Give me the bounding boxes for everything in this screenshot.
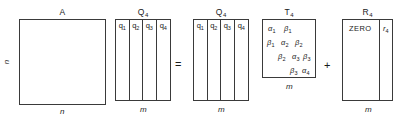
t4-entry-r3c4: β3 [303,53,310,61]
q-column-2-label: q2 [208,22,221,30]
matrix-a-dim-left: n [3,60,11,64]
matrix-q4-right-title: Q4 [193,8,249,17]
t4-entry-r1c1: α1 [268,25,275,33]
matrix-q4-right-title-sub: 4 [223,12,227,18]
q-column-3-label: q3 [143,22,156,30]
matrix-a-title-text: A [60,7,66,17]
q-column-2: q2 [130,20,144,100]
matrix-q4-right-title-text: Q [216,7,223,17]
matrix-t4-dim-bottom: m [286,83,293,91]
equals-operator: = [175,59,181,70]
matrix-r4-dim-bottom: m [365,106,372,114]
q-column-4: q4 [235,20,249,100]
figure-canvas: A n n Q4 q1 q2 q3 q4 m = Q4 [0,0,404,123]
matrix-r4-title-text: R [363,7,369,17]
t4-entry-r2c1: β1 [267,39,274,47]
q-column-1: q1 [194,20,208,100]
plus-operator: + [324,60,330,71]
matrix-r4-column-divider [379,20,380,100]
q-column-1-label: q1 [116,22,129,30]
q-column-1: q1 [116,20,130,100]
matrix-a-title: A [19,8,106,17]
q-column-3: q3 [143,20,157,100]
q-column-2-label: q2 [130,22,143,30]
matrix-q4-left-title-text: Q [138,7,145,17]
q-column-3-label: q3 [221,22,234,30]
q-column-1-label: q1 [194,22,207,30]
matrix-t4-box: α1 β1 β1 α2 β2 β2 α3 β3 β3 α4 [262,19,316,78]
matrix-q4-right-box: q1 q2 q3 q4 [193,19,249,101]
matrix-q4-left-title-sub: 4 [145,12,149,18]
t4-entry-r2c2: α2 [281,39,288,47]
t4-entry-r2c3: β2 [295,39,302,47]
matrix-q4-right-columns: q1 q2 q3 q4 [194,20,248,100]
q-column-4-label: q4 [157,22,171,30]
matrix-q4-left-dim-bottom: m [140,106,147,114]
t4-entry-r1c2: β1 [284,25,291,33]
matrix-a-box [19,19,106,105]
matrix-r4-box: ZERO r4 [342,19,393,101]
q-column-4: q4 [157,20,171,100]
matrix-r4-title-sub: 4 [369,12,373,18]
matrix-r4-title: R4 [342,8,393,17]
q-column-4-label: q4 [235,22,249,30]
matrix-r4-zero-label: ZERO [349,25,371,33]
matrix-r4-last-column-label: r4 [383,25,389,33]
matrix-q4-right-dim-bottom: m [218,106,225,114]
q-column-2: q2 [208,20,222,100]
matrix-a-dim-bottom: n [60,108,64,116]
matrix-q4-left-title: Q4 [115,8,171,17]
matrix-t4-title: T4 [262,8,316,17]
t4-entry-r3c2: β2 [278,53,285,61]
t4-entry-r4c3: β3 [290,67,297,75]
t4-entry-r4c4: α4 [302,67,309,75]
matrix-q4-left-columns: q1 q2 q3 q4 [116,20,170,100]
q-column-3: q3 [221,20,235,100]
matrix-q4-left-box: q1 q2 q3 q4 [115,19,171,101]
t4-entry-r3c3: α3 [292,53,299,61]
matrix-t4-title-sub: 4 [290,12,294,18]
